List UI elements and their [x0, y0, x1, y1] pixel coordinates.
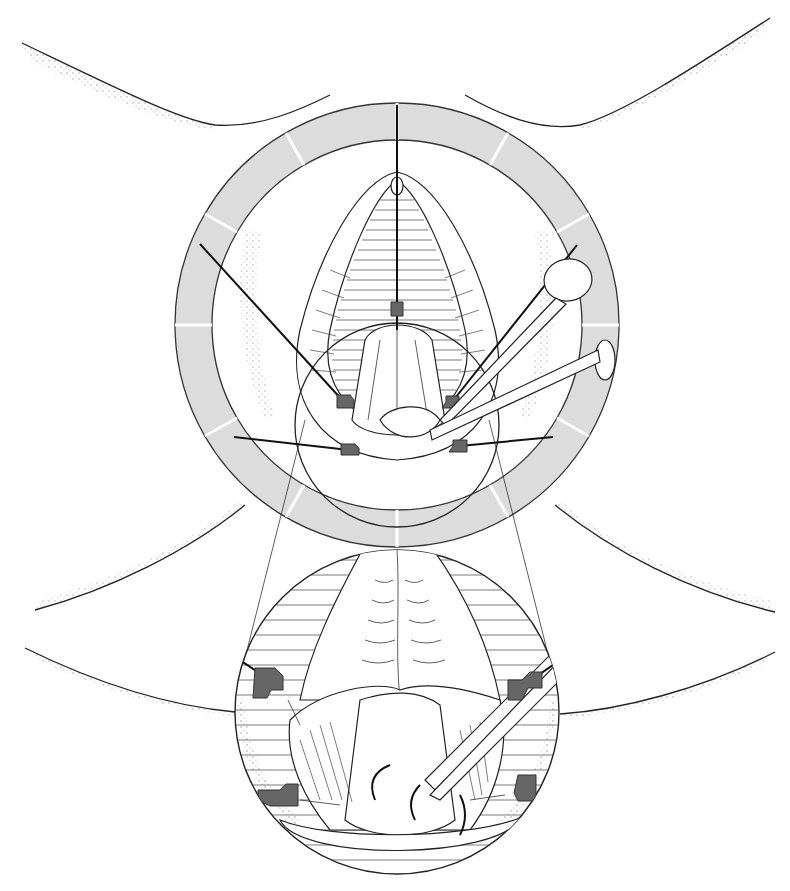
surgical-illustration [0, 0, 790, 891]
magnified-inset [230, 545, 575, 874]
